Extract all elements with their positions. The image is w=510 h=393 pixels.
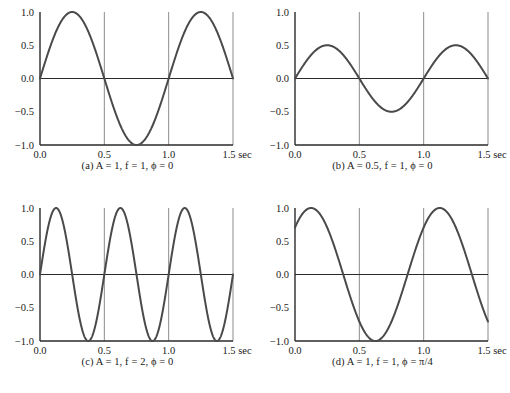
y-tick-label: −0.5 [15, 302, 34, 313]
y-tick-label: −1.0 [15, 336, 34, 347]
caption-c: (c) A = 1, f = 2, ϕ = 0 [0, 356, 255, 367]
y-tick-label: −1.0 [270, 140, 289, 151]
x-tick-label: 0.0 [288, 345, 301, 356]
x-tick-label: 0.5 [98, 345, 111, 356]
y-tick-label: −0.5 [15, 106, 34, 117]
x-tick-label: 1.0 [162, 149, 175, 160]
x-tick-label: 0.5 [353, 149, 366, 160]
y-tick-label: −0.5 [270, 106, 289, 117]
x-tick-label: 1.5 sec [222, 345, 251, 356]
y-tick-label: 0.0 [21, 73, 34, 84]
caption-d: (d) A = 1, f = 1, ϕ = π/4 [255, 356, 510, 367]
panel-c: −1.0−0.50.00.51.00.00.51.01.5 sec (c) A … [0, 196, 255, 392]
y-tick-label: 0.0 [276, 269, 289, 280]
plot-d: −1.0−0.50.00.51.00.00.51.01.5 sec [255, 196, 510, 366]
y-tick-label: 1.0 [21, 203, 34, 214]
y-tick-label: −1.0 [15, 140, 34, 151]
sine-wave-figure: −1.0−0.50.00.51.00.00.51.01.5 sec (a) A … [0, 0, 510, 393]
y-tick-label: 1.0 [276, 7, 289, 18]
y-tick-label: −1.0 [270, 336, 289, 347]
x-tick-label: 1.5 sec [477, 345, 506, 356]
x-tick-label: 0.0 [33, 149, 46, 160]
x-tick-label: 1.0 [162, 345, 175, 356]
x-tick-label: 0.5 [353, 345, 366, 356]
caption-a: (a) A = 1, f = 1, ϕ = 0 [0, 160, 255, 171]
y-tick-label: 0.0 [21, 269, 34, 280]
panel-d: −1.0−0.50.00.51.00.00.51.01.5 sec (d) A … [255, 196, 510, 392]
y-tick-label: 0.0 [276, 73, 289, 84]
y-tick-label: 1.0 [21, 7, 34, 18]
caption-b: (b) A = 0.5, f = 1, ϕ = 0 [255, 160, 510, 171]
x-tick-label: 1.5 sec [477, 149, 506, 160]
y-tick-label: 0.5 [21, 40, 34, 51]
y-tick-label: 0.5 [21, 236, 34, 247]
x-tick-label: 0.5 [98, 149, 111, 160]
x-tick-label: 1.0 [417, 149, 430, 160]
plot-c: −1.0−0.50.00.51.00.00.51.01.5 sec [0, 196, 255, 366]
y-tick-label: 1.0 [276, 203, 289, 214]
x-tick-label: 0.0 [33, 345, 46, 356]
panel-a: −1.0−0.50.00.51.00.00.51.01.5 sec (a) A … [0, 0, 255, 196]
x-tick-label: 0.0 [288, 149, 301, 160]
x-tick-label: 1.0 [417, 345, 430, 356]
y-tick-label: 0.5 [276, 40, 289, 51]
y-tick-label: 0.5 [276, 236, 289, 247]
y-tick-label: −0.5 [270, 302, 289, 313]
plot-b: −1.0−0.50.00.51.00.00.51.01.5 sec [255, 0, 510, 170]
x-tick-label: 1.5 sec [222, 149, 251, 160]
panel-b: −1.0−0.50.00.51.00.00.51.01.5 sec (b) A … [255, 0, 510, 196]
plot-a: −1.0−0.50.00.51.00.00.51.01.5 sec [0, 0, 255, 170]
